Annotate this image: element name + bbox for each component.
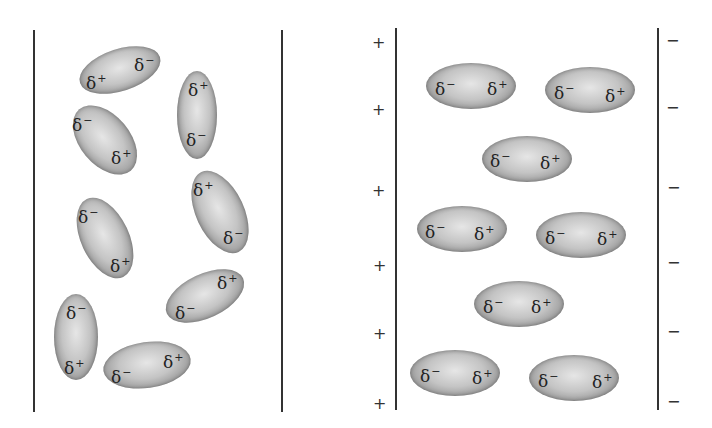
positive-charge-sign: + [373, 258, 386, 274]
partial-negative-label: δ− [545, 228, 565, 247]
partial-positive-label: δ+ [472, 368, 492, 387]
partial-positive-label: δ+ [111, 148, 131, 167]
partial-positive-label: δ+ [163, 352, 183, 371]
partial-negative-label: δ− [435, 79, 455, 98]
negative-charge-sign: − [667, 324, 680, 340]
partial-positive-label: δ+ [597, 229, 617, 248]
partial-positive-label: δ+ [605, 86, 625, 105]
left-plate-left [33, 30, 35, 412]
negative-plate [657, 28, 659, 410]
partial-positive-label: δ+ [531, 297, 551, 316]
partial-positive-label: δ+ [193, 180, 213, 199]
positive-charge-sign: + [373, 326, 386, 342]
partial-negative-label: δ− [66, 303, 86, 322]
partial-negative-label: δ− [175, 303, 195, 322]
partial-positive-label: δ+ [592, 372, 612, 391]
partial-positive-label: δ+ [188, 80, 208, 99]
positive-charge-sign: + [372, 102, 385, 118]
polar-molecule [60, 93, 150, 186]
partial-positive-label: δ+ [110, 256, 130, 275]
partial-negative-label: δ− [554, 83, 574, 102]
partial-negative-label: δ− [490, 151, 510, 170]
positive-plate [395, 28, 397, 410]
partial-negative-label: δ− [186, 130, 206, 149]
negative-charge-sign: − [667, 394, 680, 410]
partial-negative-label: δ− [420, 366, 440, 385]
partial-negative-label: δ− [483, 297, 503, 316]
left-plate-right [281, 30, 283, 412]
partial-positive-label: δ+ [474, 224, 494, 243]
partial-negative-label: δ− [223, 228, 243, 247]
partial-negative-label: δ− [111, 367, 131, 386]
polar-molecule [180, 162, 261, 262]
positive-charge-sign: + [372, 183, 385, 199]
partial-positive-label: δ+ [86, 73, 106, 92]
partial-positive-label: δ+ [64, 358, 84, 377]
polar-molecule [158, 258, 253, 333]
partial-negative-label: δ− [78, 207, 98, 226]
partial-positive-label: δ+ [487, 79, 507, 98]
partial-negative-label: δ− [134, 55, 154, 74]
polar-molecule [65, 189, 145, 287]
partial-positive-label: δ+ [217, 273, 237, 292]
negative-charge-sign: − [666, 33, 679, 49]
negative-charge-sign: − [667, 255, 680, 271]
partial-negative-label: δ− [425, 222, 445, 241]
partial-positive-label: δ+ [540, 153, 560, 172]
negative-charge-sign: − [667, 180, 680, 196]
negative-charge-sign: − [666, 100, 679, 116]
positive-charge-sign: + [372, 35, 385, 51]
positive-charge-sign: + [373, 396, 386, 412]
partial-negative-label: δ− [538, 371, 558, 390]
partial-negative-label: δ− [72, 115, 92, 134]
